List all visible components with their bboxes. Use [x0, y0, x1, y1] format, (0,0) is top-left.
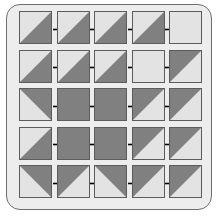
grid-cell[interactable] — [132, 88, 165, 121]
grid-cell[interactable] — [132, 11, 165, 44]
grid-cell[interactable] — [19, 127, 52, 160]
cell-grid — [19, 11, 202, 205]
grid-cell[interactable] — [57, 127, 90, 160]
diagram-row — [19, 88, 202, 121]
grid-cell[interactable] — [57, 11, 90, 44]
grid-cell[interactable] — [19, 88, 52, 121]
grid-cell[interactable] — [94, 88, 127, 121]
grid-cell[interactable] — [132, 50, 165, 83]
grid-cell[interactable] — [57, 50, 90, 83]
grid-cell[interactable] — [94, 50, 127, 83]
grid-cell[interactable] — [19, 50, 52, 83]
grid-cell[interactable] — [57, 88, 90, 121]
grid-cell[interactable] — [132, 165, 165, 198]
grid-cell[interactable] — [132, 127, 165, 160]
grid-cell[interactable] — [169, 88, 202, 121]
grid-cell[interactable] — [169, 50, 202, 83]
diagram-row — [19, 11, 202, 44]
grid-cell[interactable] — [169, 165, 202, 198]
diagram-row — [19, 127, 202, 160]
grid-cell[interactable] — [19, 165, 52, 198]
grid-cell[interactable] — [57, 165, 90, 198]
diagram-row — [19, 50, 202, 83]
grid-cell[interactable] — [94, 11, 127, 44]
grid-cell[interactable] — [94, 165, 127, 198]
diagram-canvas — [0, 0, 221, 217]
grid-cell[interactable] — [169, 127, 202, 160]
diagram-row — [19, 165, 202, 198]
grid-cell[interactable] — [94, 127, 127, 160]
grid-cell[interactable] — [19, 11, 52, 44]
grid-cell[interactable] — [169, 11, 202, 44]
